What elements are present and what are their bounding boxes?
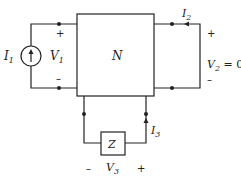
v3-minus: – [86,163,91,174]
v2-label: V2 = 0 [207,58,241,73]
v1-label: V1 [50,49,64,65]
arrow-left-icon [184,22,189,27]
terminal-dot [57,86,61,90]
terminal-dot [82,112,86,116]
source-label: I1 [3,49,14,65]
terminal-dot [170,22,174,26]
i2-label: I2 [181,7,191,22]
terminal-dot [170,86,174,90]
impedance-label: Z [107,138,116,151]
terminal-dot [144,112,148,116]
arrow-up-icon [144,118,149,123]
v3-plus: + [137,163,145,174]
terminal-dot [57,22,61,26]
v3-label: V3 [106,161,119,176]
v2-plus: + [207,28,215,39]
port2-wire [154,24,200,88]
arrow-up-icon [29,49,34,54]
v1-plus: + [56,28,64,39]
v1-minus: – [56,73,61,84]
v2-minus: – [207,74,212,85]
port1-wire [31,24,77,46]
network-label: N [111,49,123,63]
port1-wire-bottom [31,66,77,88]
port3-wire-left [84,96,101,143]
port3-wire-right [125,96,146,143]
i3-label: I3 [150,124,160,139]
circuit-diagram: N I1 V1 + – I2 V2 = 0 + – Z I3 V3 – + [0,0,241,179]
